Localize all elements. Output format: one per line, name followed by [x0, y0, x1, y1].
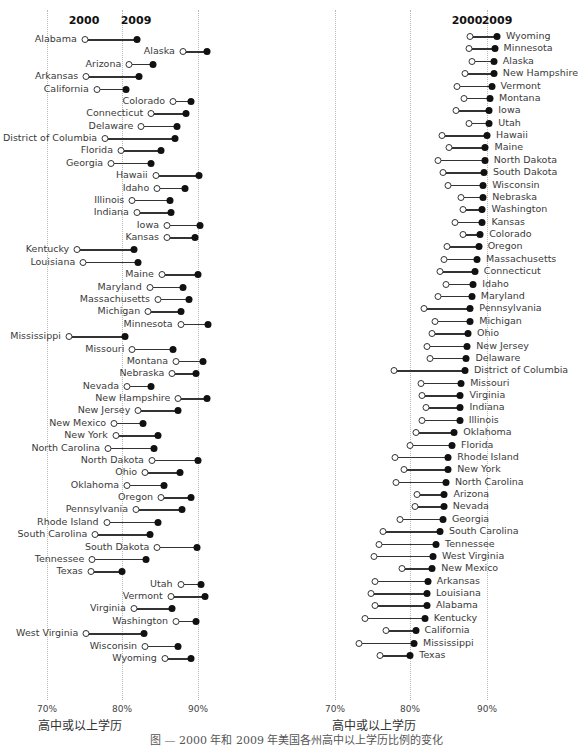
change-line: [91, 571, 122, 573]
data-row: Maryland: [0, 282, 290, 294]
marker-2000-open-circle-icon: [154, 296, 161, 303]
marker-2009-filled-circle-icon: [148, 383, 155, 390]
marker-2009-filled-circle-icon: [197, 222, 204, 229]
change-line: [86, 76, 139, 78]
marker-2000-open-circle-icon: [435, 293, 442, 300]
marker-2000-open-circle-icon: [124, 482, 131, 489]
data-row: Hawaii: [290, 130, 578, 142]
state-label: Pennsylvania: [473, 302, 541, 313]
state-label: South Dakota: [487, 166, 557, 177]
change-line: [69, 336, 125, 338]
data-row: Alaska: [290, 56, 578, 68]
data-row: Pennsylvania: [290, 303, 578, 315]
marker-2000-open-circle-icon: [436, 268, 443, 275]
marker-2000-open-circle-icon: [173, 618, 180, 625]
data-row: Wisconsin: [0, 641, 290, 653]
data-row: Rhode Island: [290, 452, 578, 464]
marker-2000-open-circle-icon: [401, 466, 408, 473]
data-row: Illinois: [290, 415, 578, 427]
data-row: Maryland: [290, 291, 578, 303]
state-label: Illinois: [463, 414, 499, 425]
state-label: Maine: [125, 268, 159, 279]
marker-2000-open-circle-icon: [382, 627, 389, 634]
marker-2000-open-circle-icon: [138, 123, 145, 130]
marker-2000-open-circle-icon: [102, 135, 109, 142]
state-label: Missouri: [85, 343, 129, 354]
data-row: Minnesota: [0, 319, 290, 331]
data-row: Tennessee: [0, 554, 290, 566]
change-line: [145, 472, 180, 474]
data-row: Ohio: [290, 328, 578, 340]
change-line: [116, 435, 158, 437]
marker-2000-open-circle-icon: [466, 33, 473, 40]
state-label: Arizona: [86, 58, 127, 69]
state-label: Mississippi: [417, 637, 474, 648]
marker-2009-filled-circle-icon: [158, 147, 165, 154]
data-row: Vermont: [290, 81, 578, 93]
marker-2000-open-circle-icon: [368, 590, 375, 597]
state-label: Oklahoma: [457, 426, 511, 437]
state-label: South Dakota: [85, 541, 154, 552]
change-line: [448, 185, 483, 187]
state-label: New York: [451, 463, 501, 474]
marker-2009-filled-circle-icon: [167, 209, 174, 216]
state-label: Connecticut: [478, 265, 541, 276]
marker-2009-filled-circle-icon: [130, 246, 137, 253]
marker-2009-filled-circle-icon: [167, 197, 174, 204]
change-line: [105, 138, 175, 140]
state-label: Ohio: [471, 327, 499, 338]
marker-2000-open-circle-icon: [173, 358, 180, 365]
data-row: Rhode Island: [0, 517, 290, 529]
marker-2009-filled-circle-icon: [185, 296, 192, 303]
state-label: Minnesota: [498, 42, 553, 53]
data-row: Iowa: [0, 220, 290, 232]
marker-2000-open-circle-icon: [152, 172, 159, 179]
data-row: New Mexico: [0, 418, 290, 430]
state-label: Louisiana: [430, 587, 481, 598]
marker-2009-filled-circle-icon: [198, 581, 205, 588]
state-label: District of Columbia: [468, 364, 568, 375]
data-row: West Virginia: [290, 551, 578, 563]
data-row: Texas: [290, 650, 578, 662]
change-line: [427, 346, 467, 348]
marker-2000-open-circle-icon: [126, 61, 133, 68]
marker-2000-open-circle-icon: [465, 120, 472, 127]
marker-2000-open-circle-icon: [87, 568, 94, 575]
marker-2000-open-circle-icon: [355, 640, 362, 647]
marker-2009-filled-circle-icon: [172, 135, 179, 142]
state-label: Vermont: [123, 590, 168, 601]
marker-2009-filled-circle-icon: [136, 73, 143, 80]
marker-2000-open-circle-icon: [468, 58, 475, 65]
data-row: Wyoming: [290, 31, 578, 43]
data-row: Ohio: [0, 467, 290, 479]
change-line: [443, 172, 484, 174]
marker-2009-filled-circle-icon: [188, 98, 195, 105]
data-row: District of Columbia: [290, 365, 578, 377]
data-row: Wyoming: [0, 653, 290, 665]
change-line: [108, 448, 154, 450]
state-label: Kentucky: [26, 243, 74, 254]
header-2009: 2009: [121, 14, 152, 27]
change-line: [371, 593, 426, 595]
data-row: New Hampshire: [0, 393, 290, 405]
state-label: Delaware: [89, 120, 139, 131]
marker-2000-open-circle-icon: [376, 541, 383, 548]
change-line: [157, 547, 197, 549]
data-row: South Carolina: [0, 529, 290, 541]
marker-2000-open-circle-icon: [135, 407, 142, 414]
change-line: [380, 655, 410, 657]
marker-2000-open-circle-icon: [396, 516, 403, 523]
state-label: Arkansas: [35, 70, 83, 81]
state-label: New Mexico: [49, 417, 111, 428]
marker-2000-open-circle-icon: [112, 432, 119, 439]
marker-2009-filled-circle-icon: [173, 123, 180, 130]
data-row: Arizona: [290, 489, 578, 501]
state-label: Michigan: [473, 315, 522, 326]
data-row: Colorado: [290, 229, 578, 241]
data-row: California: [0, 84, 290, 96]
marker-2000-open-circle-icon: [431, 318, 438, 325]
marker-2000-open-circle-icon: [108, 160, 115, 167]
marker-2009-filled-circle-icon: [175, 407, 182, 414]
data-row: New Mexico: [290, 563, 578, 575]
state-label: New Jersey: [78, 404, 136, 415]
